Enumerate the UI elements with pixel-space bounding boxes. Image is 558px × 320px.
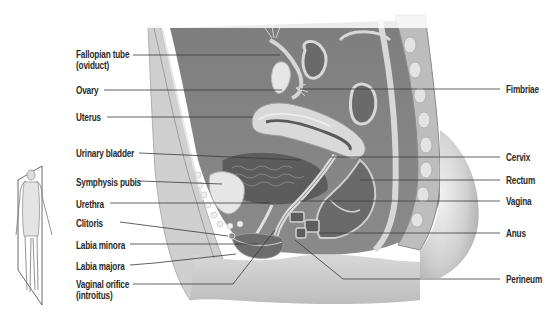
inset-figure xyxy=(16,166,52,305)
label-fimbriae: Fimbriae xyxy=(506,84,539,95)
anatomy-diagram: Fallopian tube (oviduct) Ovary Uterus Ur… xyxy=(0,0,558,320)
clitoris xyxy=(229,233,235,239)
label-vagina: Vagina xyxy=(506,196,531,207)
labia xyxy=(232,234,283,259)
label-urinary-bladder: Urinary bladder xyxy=(76,148,134,159)
label-urethra: Urethra xyxy=(76,199,104,210)
label-labia-majora: Labia majora xyxy=(76,261,125,272)
label-ovary: Ovary xyxy=(76,85,98,96)
label-anus: Anus xyxy=(506,228,526,239)
label-cervix: Cervix xyxy=(506,152,530,163)
label-fallopian-tube: Fallopian tube (oviduct) xyxy=(76,49,129,71)
label-clitoris: Clitoris xyxy=(76,218,103,229)
symphysis-pubis xyxy=(209,172,244,214)
anatomy-illustration xyxy=(0,0,558,320)
label-rectum: Rectum xyxy=(506,175,535,186)
label-perineum: Perineum xyxy=(506,274,542,285)
label-uterus: Uterus xyxy=(76,112,101,123)
label-vaginal-orifice: Vaginal orifice (introitus) xyxy=(76,279,129,301)
label-labia-minora: Labia minora xyxy=(76,240,125,251)
label-symphysis-pubis: Symphysis pubis xyxy=(76,177,141,188)
